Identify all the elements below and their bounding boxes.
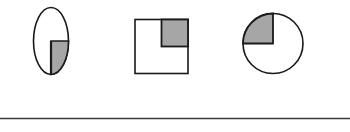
square-shape [135, 20, 188, 74]
circle-shape [243, 14, 303, 74]
square-shaded-quarter [162, 20, 189, 47]
circle-shaded-quarter [243, 14, 273, 44]
ellipse-shaded-quarter [51, 41, 69, 75]
ellipse-shape [34, 8, 69, 75]
shapes-figure [0, 0, 350, 132]
